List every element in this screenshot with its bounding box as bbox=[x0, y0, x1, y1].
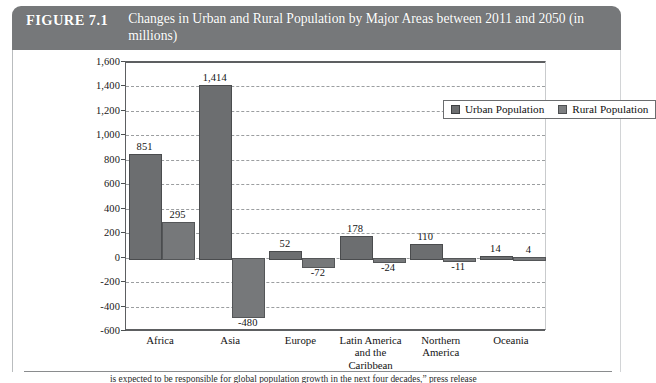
y-axis-tick-label: 400 bbox=[104, 202, 120, 213]
bar-value-label: 851 bbox=[117, 141, 172, 152]
bar-rural bbox=[162, 222, 195, 260]
legend-label-urban: Urban Population bbox=[465, 103, 544, 115]
x-axis-category-label: Oceania bbox=[463, 334, 559, 346]
bar-value-label: 110 bbox=[398, 231, 453, 242]
y-axis-tick-label: -200 bbox=[100, 276, 120, 287]
bar-urban bbox=[199, 85, 232, 260]
legend-item-rural: Rural Population bbox=[558, 103, 648, 115]
y-axis-tick-label: 0 bbox=[115, 251, 120, 262]
figure-title: Changes in Urban and Rural Population by… bbox=[128, 11, 588, 44]
bar-value-label: -11 bbox=[431, 261, 486, 272]
bar-value-label: 1,414 bbox=[187, 72, 242, 83]
figure-header-banner: FIGURE 7.1 Changes in Urban and Rural Po… bbox=[12, 6, 621, 50]
bar-value-label: 178 bbox=[328, 223, 383, 234]
gridline bbox=[126, 282, 545, 283]
legend-item-urban: Urban Population bbox=[451, 103, 544, 115]
legend-swatch-rural-icon bbox=[558, 105, 567, 114]
gridline bbox=[126, 184, 545, 185]
figure-caption: is expected to be responsible for global… bbox=[110, 374, 610, 383]
y-axis-tick-label: 200 bbox=[104, 227, 120, 238]
y-axis-tick-label: 1,400 bbox=[96, 80, 120, 91]
bar-value-label: 52 bbox=[257, 238, 312, 249]
y-axis-tick-label: 1,200 bbox=[96, 104, 120, 115]
y-axis-tick-label: -400 bbox=[100, 300, 120, 311]
chart-legend: Urban Population Rural Population bbox=[443, 100, 656, 119]
figure-number: FIGURE 7.1 bbox=[26, 11, 108, 29]
caption-divider bbox=[24, 371, 612, 372]
gridline bbox=[126, 330, 545, 331]
bar-value-label: -72 bbox=[290, 267, 345, 278]
bar-rural bbox=[513, 257, 546, 261]
y-axis-labels: 1,6001,4001,2001,0008006004002000-200-40… bbox=[85, 61, 120, 330]
gridline bbox=[126, 307, 545, 308]
gridline bbox=[126, 86, 545, 87]
y-axis-tick-label: 800 bbox=[104, 153, 120, 164]
gridline bbox=[126, 135, 545, 136]
bar-value-label: 4 bbox=[501, 244, 556, 255]
bar-urban bbox=[480, 256, 513, 260]
bar-urban bbox=[269, 251, 302, 259]
bar-urban bbox=[340, 236, 373, 260]
bar-value-label: -24 bbox=[361, 262, 416, 273]
bar-value-label: 295 bbox=[150, 209, 205, 220]
legend-swatch-urban-icon bbox=[451, 105, 460, 114]
bar-urban bbox=[410, 244, 443, 259]
legend-label-rural: Rural Population bbox=[572, 103, 648, 115]
bar-urban bbox=[129, 154, 162, 260]
bar-value-label: -480 bbox=[220, 317, 275, 328]
gridline bbox=[126, 160, 545, 161]
y-axis-tick-label: 1,000 bbox=[96, 129, 120, 140]
y-axis-tick-label: 600 bbox=[104, 178, 120, 189]
gridline bbox=[126, 62, 545, 63]
figure-body: 1,6001,4001,2001,0008006004002000-200-40… bbox=[12, 50, 621, 372]
y-axis-tick-label: 1,600 bbox=[96, 56, 120, 67]
bar-rural bbox=[232, 258, 265, 319]
plot-area: 8512951,414-48052-72178-24110-11144 Urba… bbox=[125, 61, 546, 330]
bar-chart: 1,6001,4001,2001,0008006004002000-200-40… bbox=[13, 50, 622, 372]
